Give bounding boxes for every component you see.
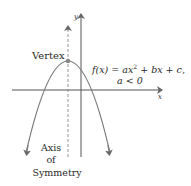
left-arrow-icon (27, 145, 29, 155)
axis-of-symmetry-label-line3: Symmetry (32, 167, 82, 178)
axis-of-symmetry-label-line2: of (46, 154, 57, 165)
equation-line1: f(x) = ax2 + bx + c, (91, 63, 185, 75)
axis-of-symmetry-label-line1: Axis (40, 142, 61, 153)
parabola-diagram: x y Vertex f(x) = ax2 + bx + c, a < 0 Ax… (0, 0, 191, 186)
vertex-dot (66, 59, 71, 64)
right-arrow-icon (108, 145, 110, 155)
x-axis-label: x (158, 93, 162, 101)
y-axis-label: y (73, 13, 79, 21)
vertex-label: Vertex (31, 50, 65, 61)
equation-line2: a < 0 (117, 75, 143, 86)
